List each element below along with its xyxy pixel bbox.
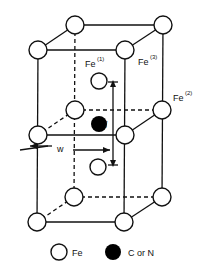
label-l: l: [105, 120, 108, 130]
label-w: w: [56, 144, 64, 154]
fe-atom: [29, 41, 47, 59]
label-fe1: Fe: [85, 59, 96, 69]
svg-text:Fe: Fe: [72, 248, 83, 258]
fe1-atom: [91, 73, 107, 89]
fe-atom: [116, 41, 134, 59]
fe-atom: [153, 188, 171, 206]
svg-text:C or N: C or N: [128, 248, 154, 258]
label-fe2: Fe: [173, 93, 184, 103]
svg-text:(3): (3): [150, 54, 157, 60]
fe-atom: [154, 16, 172, 34]
fe-atom: [65, 188, 83, 206]
fe-atom: [116, 126, 134, 144]
fe-atom: [115, 213, 133, 231]
fe-atom: [66, 16, 84, 34]
label-fe3: Fe: [138, 57, 149, 67]
legend: Fe C or N: [51, 244, 154, 260]
legend-fe-icon: [51, 244, 67, 260]
fe-atom: [66, 101, 84, 119]
fe-lower-atom: [90, 159, 106, 175]
fe-atom: [153, 101, 171, 119]
crystal-structure-diagram: Fe (1) Fe (3) Fe (2) l w Fe C or N: [0, 0, 199, 273]
svg-text:(1): (1): [97, 56, 104, 62]
fe-atom: [28, 213, 46, 231]
legend-c-icon: [105, 244, 121, 260]
fe-atom: [29, 126, 47, 144]
svg-text:(2): (2): [185, 90, 192, 96]
